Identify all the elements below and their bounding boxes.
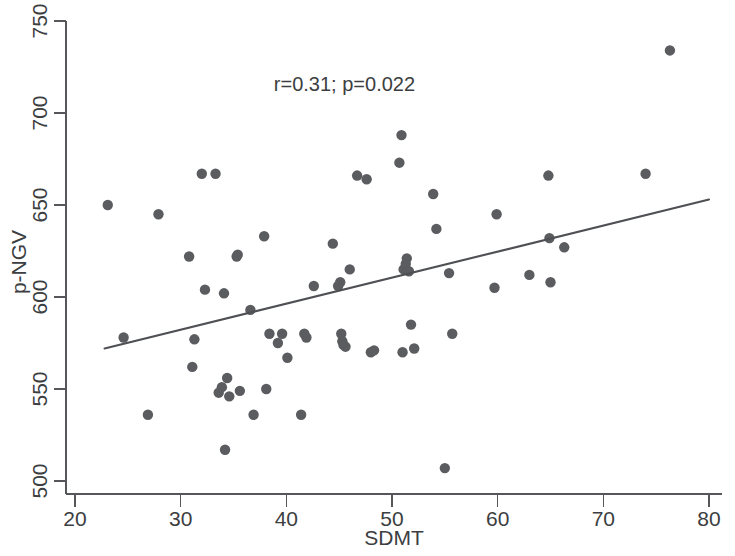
data-point [361,174,371,184]
data-point [153,209,163,219]
scatter-plot-figure: 500550600650700750 20304050607080 r=0.31… [0,0,735,556]
data-point [352,170,362,180]
x-tick-label: 40 [275,507,298,530]
data-point [143,410,153,420]
y-tick-label: 650 [28,187,51,222]
data-point [217,382,227,392]
data-point [309,281,319,291]
data-point [397,347,407,357]
data-point [277,329,287,339]
data-point [219,288,229,298]
data-point [222,373,232,383]
data-point [301,332,311,342]
data-point [431,224,441,234]
data-point [428,189,438,199]
data-point [559,242,569,252]
data-point [665,45,675,55]
data-point [282,353,292,363]
data-point [524,270,534,280]
x-tick-label: 20 [63,507,86,530]
y-tick-label: 600 [28,279,51,314]
y-tick-label: 500 [28,463,51,498]
y-axis-ticks: 500550600650700750 [28,3,66,498]
data-point [369,345,379,355]
x-axis-title: SDMT [364,526,424,549]
y-tick-label: 550 [28,371,51,406]
y-tick-label: 700 [28,95,51,130]
data-point [345,264,355,274]
data-point [489,283,499,293]
data-point [220,445,230,455]
data-points-group [103,45,676,473]
data-point [440,463,450,473]
data-point [444,268,454,278]
data-point [184,251,194,261]
data-point [197,169,207,179]
x-axis-ticks: 20304050607080 [63,494,720,530]
data-point [189,334,199,344]
data-point [264,329,274,339]
x-tick-label: 60 [486,507,509,530]
data-point [447,329,457,339]
data-point [394,157,404,167]
data-point [409,343,419,353]
data-point [235,386,245,396]
data-point [491,209,501,219]
y-axis-title: p-NGV [7,230,30,294]
data-point [261,384,271,394]
correlation-annotation: r=0.31; p=0.022 [274,73,415,95]
data-point [210,169,220,179]
data-point [273,338,283,348]
data-point [296,410,306,420]
data-point [118,332,128,342]
data-point [406,319,416,329]
data-point [103,200,113,210]
data-point [328,238,338,248]
data-point [545,277,555,287]
data-point [233,249,243,259]
y-tick-label: 750 [28,3,51,38]
x-tick-label: 70 [592,507,615,530]
data-point [640,169,650,179]
data-point [340,341,350,351]
data-point [248,410,258,420]
x-tick-label: 30 [169,507,192,530]
data-point [335,277,345,287]
plot-canvas: 500550600650700750 20304050607080 r=0.31… [0,0,735,556]
x-tick-label: 80 [697,507,720,530]
data-point [396,130,406,140]
data-point [259,231,269,241]
data-point [224,391,234,401]
data-point [187,362,197,372]
data-point [200,284,210,294]
data-point [402,253,412,263]
data-point [543,170,553,180]
